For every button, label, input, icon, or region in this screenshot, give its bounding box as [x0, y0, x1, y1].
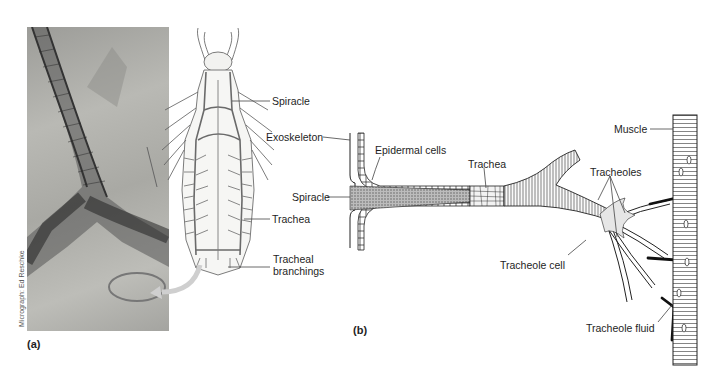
- label-tracheole-fluid: Tracheole fluid: [586, 322, 654, 334]
- label-muscle: Muscle: [614, 123, 647, 135]
- label-trachea-b: Trachea: [468, 158, 506, 170]
- panel-b-label: (b): [353, 324, 367, 336]
- label-tracheoles: Tracheoles: [590, 166, 642, 178]
- label-spiracle-b: Spiracle: [292, 191, 330, 203]
- label-epidermal-cells: Epidermal cells: [375, 144, 446, 156]
- label-tracheole-cell: Tracheole cell: [500, 259, 565, 271]
- trachea-tracheole-diagram: [0, 0, 718, 372]
- label-exoskeleton: Exoskeleton: [266, 131, 323, 143]
